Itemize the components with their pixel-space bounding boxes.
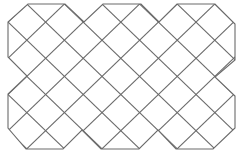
grid-line-ascending [0, 0, 239, 158]
lattice-diagram [0, 0, 239, 158]
grid-line-descending [0, 0, 239, 95]
diagonal-grid-lines [0, 0, 239, 158]
grid-line-descending [0, 0, 239, 22]
grid-line-ascending [0, 0, 239, 95]
grid-line-ascending [0, 0, 239, 22]
